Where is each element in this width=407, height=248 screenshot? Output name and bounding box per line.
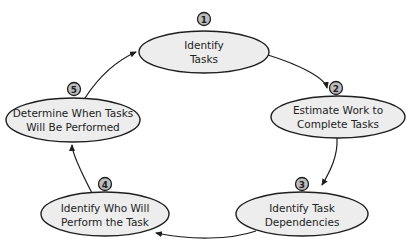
step-number-1: 1 bbox=[201, 15, 207, 25]
step-node-1 bbox=[139, 31, 269, 73]
step-node-4 bbox=[41, 192, 169, 236]
step-label-3-line1: Identify Task bbox=[269, 202, 336, 214]
step-5: 5 Determine When Tasks Will Be Performed bbox=[6, 83, 140, 143]
step-number-4: 4 bbox=[102, 180, 108, 190]
step-label-4-line1: Identify Who Will bbox=[61, 202, 150, 214]
step-label-2-line2: Complete Tasks bbox=[297, 118, 379, 130]
step-3: 3 Identify Task Dependencies bbox=[236, 178, 368, 237]
step-label-1-line1: Identify bbox=[184, 39, 224, 51]
step-number-3: 3 bbox=[299, 180, 305, 190]
step-2: 2 Estimate Work to Complete Tasks bbox=[271, 82, 405, 139]
arrow-5-to-1 bbox=[85, 52, 136, 98]
step-label-3-line2: Dependencies bbox=[265, 216, 340, 228]
cycle-diagram: 1 Identify Tasks 2 Estimate Work to Comp… bbox=[0, 0, 407, 248]
step-node-3 bbox=[236, 192, 368, 236]
arrow-4-to-5 bbox=[72, 145, 93, 195]
step-label-5-line1: Determine When Tasks bbox=[13, 107, 133, 119]
step-1: 1 Identify Tasks bbox=[139, 13, 269, 74]
step-4: 4 Identify Who Will Perform the Task bbox=[41, 178, 169, 237]
step-label-4-line2: Perform the Task bbox=[61, 216, 150, 228]
step-number-5: 5 bbox=[71, 85, 77, 95]
arrow-3-to-4 bbox=[156, 231, 256, 238]
arrow-2-to-3 bbox=[322, 138, 337, 185]
step-node-2 bbox=[271, 96, 405, 138]
step-label-2-line1: Estimate Work to bbox=[293, 104, 383, 116]
step-label-5-line2: Will Be Performed bbox=[26, 121, 120, 133]
step-label-1-line2: Tasks bbox=[189, 53, 218, 65]
step-number-2: 2 bbox=[333, 84, 339, 94]
arrow-1-to-2 bbox=[268, 55, 327, 88]
step-node-5 bbox=[6, 98, 140, 142]
